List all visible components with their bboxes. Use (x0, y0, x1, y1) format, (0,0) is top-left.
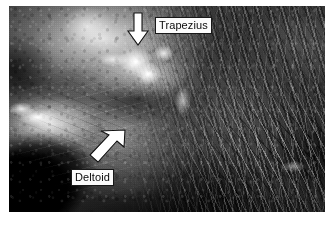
deltoid-arrow-icon (88, 128, 128, 166)
film-grain (9, 6, 325, 212)
anatomical-photograph: Trapezius Deltoid (9, 6, 325, 212)
trapezius-arrow-icon (126, 12, 150, 46)
figure-plate: Trapezius Deltoid (0, 0, 327, 227)
trapezius-label: Trapezius (155, 17, 212, 34)
deltoid-label: Deltoid (71, 169, 114, 186)
